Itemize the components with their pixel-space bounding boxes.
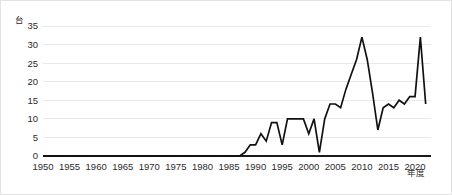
x-tick-label: 1975 [165, 161, 186, 172]
line-chart: 05101520253035 1950195519601965197019751… [1, 1, 452, 195]
y-tick-label: 0 [33, 150, 38, 161]
x-tick-label: 1980 [192, 161, 213, 172]
x-tick-label: 1990 [245, 161, 266, 172]
x-tick-label: 1995 [272, 161, 293, 172]
data-series-line [43, 37, 426, 156]
y-tick-label: 35 [27, 20, 38, 31]
y-tick-label: 30 [27, 39, 38, 50]
x-tick-label: 1955 [59, 161, 80, 172]
y-tick-label: 25 [27, 58, 38, 69]
x-axis-label: 年度 [407, 168, 425, 178]
y-tick-label: 15 [27, 95, 38, 106]
x-tick-label: 1965 [112, 161, 133, 172]
y-tick-label: 5 [33, 132, 38, 143]
y-tick-labels-group: 05101520253035 [27, 20, 38, 161]
x-tick-labels-group: 1950195519601965197019751980198519901995… [32, 161, 425, 172]
gridlines-group [43, 26, 431, 137]
x-tick-label: 1950 [32, 161, 53, 172]
x-tick-label: 2010 [351, 161, 372, 172]
x-tick-label: 2015 [378, 161, 399, 172]
x-tick-label: 1970 [139, 161, 160, 172]
y-tick-label: 20 [27, 76, 38, 87]
y-tick-label: 10 [27, 113, 38, 124]
chart-container: 05101520253035 1950195519601965197019751… [0, 0, 452, 195]
x-tick-label: 2005 [325, 161, 346, 172]
y-axis-unit-label: 台 [15, 15, 24, 25]
x-tick-label: 2000 [298, 161, 319, 172]
x-tick-label: 1985 [218, 161, 239, 172]
series-group [43, 37, 426, 156]
x-tick-label: 1960 [86, 161, 107, 172]
